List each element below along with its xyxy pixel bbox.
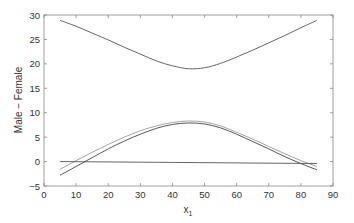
x-tick-label: 40 bbox=[167, 189, 178, 200]
x-tick-label: 90 bbox=[328, 189, 339, 200]
y-tick-label: −5 bbox=[29, 181, 40, 192]
y-axis-label: Male − Female bbox=[13, 66, 24, 133]
x-axis-ticks: 0102030405060708090 bbox=[41, 15, 338, 200]
x-tick-label: 80 bbox=[296, 189, 307, 200]
y-tick-label: 30 bbox=[29, 10, 40, 21]
x-tick-label: 0 bbox=[41, 189, 46, 200]
x-tick-label: 70 bbox=[263, 189, 274, 200]
y-axis-ticks: −5051015202530 bbox=[29, 10, 333, 192]
y-tick-label: 25 bbox=[29, 34, 40, 45]
y-tick-label: 0 bbox=[35, 156, 40, 167]
x-tick-label: 50 bbox=[199, 189, 210, 200]
plot-area bbox=[44, 15, 333, 186]
x-tick-label: 30 bbox=[135, 189, 146, 200]
x-tick-label: 60 bbox=[231, 189, 242, 200]
x-tick-label: 20 bbox=[103, 189, 114, 200]
y-tick-label: 15 bbox=[29, 83, 40, 94]
series-line-upper-band bbox=[60, 20, 317, 68]
y-tick-label: 5 bbox=[35, 132, 40, 143]
chart: 0102030405060708090 −5051015202530 x1 Ma… bbox=[0, 0, 354, 223]
y-tick-label: 10 bbox=[29, 107, 40, 118]
y-tick-label: 20 bbox=[29, 58, 40, 69]
x-axis-label: x1 bbox=[184, 204, 193, 217]
x-tick-label: 10 bbox=[71, 189, 82, 200]
series-line-zero-line bbox=[60, 162, 317, 164]
